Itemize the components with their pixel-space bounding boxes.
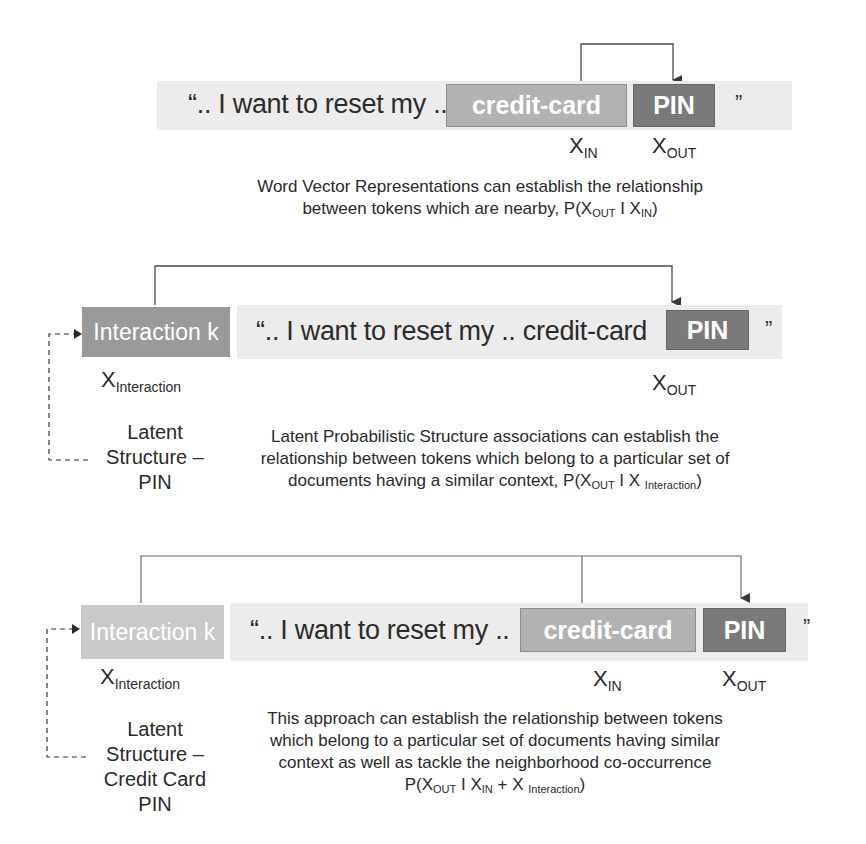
caption-combined: This approach can establish the relation…: [225, 708, 765, 800]
connector-s2: [155, 266, 672, 305]
latent-structure-label: Latent Structure – PIN: [76, 420, 234, 495]
connector-s3: [141, 556, 741, 603]
token-credit-card: credit-card: [520, 608, 696, 652]
caption-word-vector: Word Vector Representations can establis…: [200, 176, 760, 224]
closing-quote: ”: [735, 90, 742, 116]
sentence-text: “.. I want to reset my .. credit-card: [256, 316, 647, 347]
label-x-interaction: XInteraction: [101, 367, 181, 395]
label-x-interaction: XInteraction: [100, 664, 180, 692]
label-x-in: XIN: [569, 133, 598, 161]
token-pin: PIN: [703, 608, 786, 652]
label-x-out: XOUT: [722, 666, 766, 694]
sentence-text: “.. I want to reset my ..: [188, 89, 448, 120]
interaction-k-box: Interaction k: [82, 307, 230, 357]
connector-s1: [581, 44, 673, 83]
interaction-k-box: Interaction k: [81, 605, 224, 659]
caption-latent-structure: Latent Probabilistic Structure associati…: [220, 426, 770, 496]
token-pin: PIN: [633, 84, 715, 127]
label-x-in: XIN: [593, 666, 622, 694]
latent-structure-label: Latent Structure – Credit Card PIN: [76, 717, 234, 817]
token-credit-card: credit-card: [446, 84, 627, 127]
closing-quote: ”: [803, 614, 810, 640]
label-x-out: XOUT: [652, 370, 696, 398]
token-pin: PIN: [666, 310, 749, 350]
label-x-out: XOUT: [652, 133, 696, 161]
sentence-text: “.. I want to reset my ..: [250, 615, 510, 646]
closing-quote: ”: [765, 316, 772, 342]
